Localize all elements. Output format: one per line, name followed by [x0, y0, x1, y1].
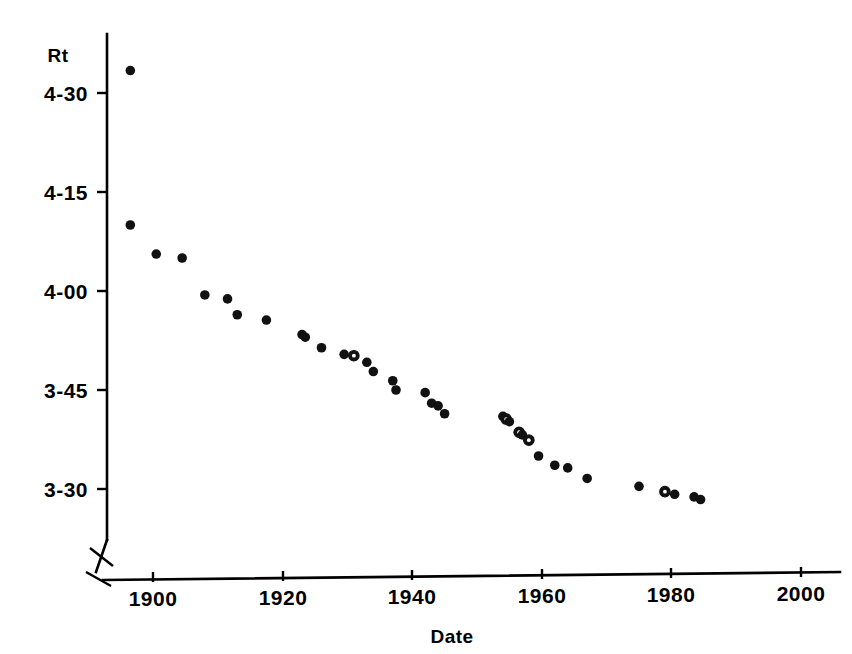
y-tick-marks [97, 93, 107, 489]
x-axis-line [103, 572, 840, 580]
y-tick-label-2: 4-00 [44, 280, 88, 303]
data-point [126, 220, 136, 230]
x-tick-label-4: 1980 [647, 583, 696, 606]
data-point [505, 417, 515, 427]
data-point [223, 294, 233, 304]
data-point [550, 460, 560, 470]
data-point [362, 357, 372, 367]
y-tick-label-3: 3-45 [44, 379, 88, 402]
x-tick-label-2: 1940 [388, 585, 437, 608]
data-point [126, 66, 136, 76]
data-point-open-center [663, 490, 667, 494]
data-point [262, 315, 272, 325]
data-point [177, 253, 187, 263]
x-axis-title: Date [430, 626, 473, 647]
data-point [420, 388, 430, 398]
y-tick-label-1: 4-15 [44, 181, 88, 204]
data-point-open-center [527, 438, 531, 442]
data-point [317, 343, 327, 353]
data-point [151, 249, 161, 259]
data-point [670, 489, 680, 499]
data-point [339, 350, 349, 360]
data-point [433, 401, 443, 411]
scatter-plot-canvas: 4-30 4-15 4-00 3-45 3-30 1900 1920 1940 … [0, 0, 852, 654]
y-tick-label-4: 3-30 [44, 478, 88, 501]
data-point [369, 367, 379, 377]
y-tick-label-0: 4-30 [44, 82, 88, 105]
data-point [232, 310, 242, 320]
data-point [440, 409, 450, 419]
x-tick-label-1: 1920 [259, 586, 308, 609]
data-point [563, 463, 573, 473]
chart-figure: 4-30 4-15 4-00 3-45 3-30 1900 1920 1940 … [0, 0, 852, 654]
x-tick-label-3: 1960 [518, 584, 567, 607]
data-point-group [126, 66, 706, 505]
data-point [391, 385, 401, 395]
data-point [200, 290, 210, 300]
data-point [534, 451, 544, 461]
data-point [582, 474, 592, 484]
x-tick-label-5: 2000 [777, 582, 826, 605]
x-tick-label-0: 1900 [129, 587, 178, 610]
data-point [300, 332, 310, 342]
data-point [696, 495, 706, 505]
data-point [634, 482, 644, 492]
data-point-open-center [352, 354, 356, 358]
data-point [388, 376, 398, 386]
axis-break-slash-upper [90, 548, 113, 566]
y-axis-title: Rt [47, 45, 68, 66]
